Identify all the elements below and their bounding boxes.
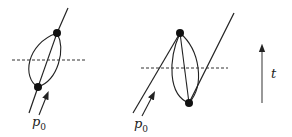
- right-diagram: [133, 13, 234, 116]
- momentum-label-right: p0: [134, 116, 148, 134]
- vertex-top: [176, 29, 184, 37]
- vertex-bottom: [34, 83, 42, 91]
- worldline-lower: [29, 87, 38, 113]
- momentum-label-left: p0: [32, 114, 46, 132]
- vertex-bottom: [185, 99, 193, 107]
- worldline-incoming: [133, 33, 180, 113]
- worldline-upper: [57, 8, 68, 33]
- time-label: t: [271, 66, 276, 81]
- left-diagram: [12, 8, 85, 115]
- momentum-arrow: [142, 95, 153, 116]
- vertex-top: [53, 29, 61, 37]
- momentum-arrow: [39, 95, 47, 115]
